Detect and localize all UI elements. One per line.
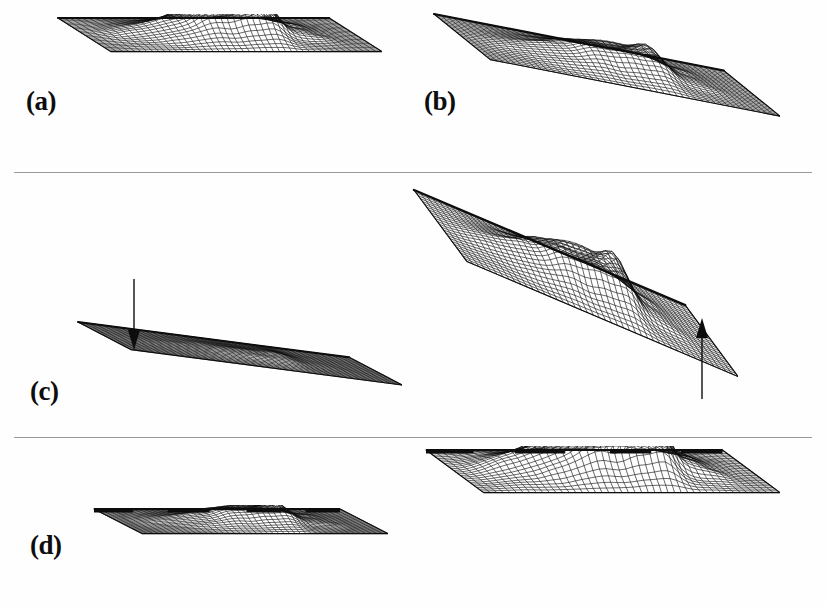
divider-2 <box>14 437 812 438</box>
plot-c-right-tilted-exaggerated <box>408 186 738 424</box>
plot-d-right-flat-exaggerated <box>420 446 780 588</box>
arrow-up-icon <box>694 318 710 400</box>
plot-d-left-flat-compressed <box>88 505 388 587</box>
divider-1 <box>14 172 812 173</box>
arrow-down-icon <box>126 278 142 350</box>
figure-root: (a) (b) (c) (d) <box>0 0 826 607</box>
plot-c-left-tilted-compressed <box>72 318 402 410</box>
plot-a-flat-baseline-normal-scale <box>52 14 382 126</box>
panel-label-d: (d) <box>30 532 62 559</box>
plot-b-tilted-baseline-normal-scale <box>428 10 780 162</box>
panel-label-c: (c) <box>30 378 58 405</box>
